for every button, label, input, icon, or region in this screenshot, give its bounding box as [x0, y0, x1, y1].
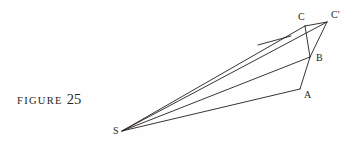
ray-S-A — [122, 89, 300, 131]
segment-A-B — [300, 57, 310, 89]
geometry-diagram: SABCC' — [0, 0, 355, 146]
vertex-label-c: C — [298, 11, 305, 22]
vertex-label-cp: C' — [331, 9, 340, 20]
ray-S-Cp — [122, 22, 327, 131]
figure-caption-word: FIGURE — [17, 95, 63, 106]
ray-S-C — [122, 26, 305, 131]
figure-caption-number: 25 — [67, 91, 82, 107]
ray-S-B — [122, 57, 310, 131]
edge-group — [122, 22, 327, 131]
vertex-label-s: S — [113, 125, 119, 136]
figure-page: SABCC' FIGURE25 — [0, 0, 355, 146]
vertex-label-a: A — [304, 89, 312, 100]
vertex-label-b: B — [316, 52, 323, 63]
figure-caption: FIGURE25 — [17, 90, 81, 108]
segment-B-C — [305, 26, 310, 57]
